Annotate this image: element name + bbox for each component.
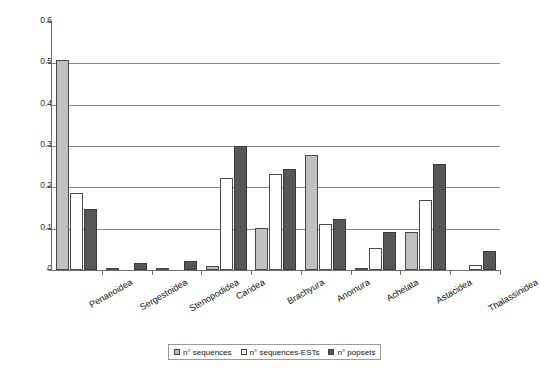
bar — [433, 164, 446, 270]
x-axis-label: Caridea — [234, 277, 266, 301]
bar — [283, 169, 296, 270]
x-tick-mark — [500, 271, 501, 275]
x-tick-mark — [201, 271, 202, 275]
bar — [106, 268, 119, 270]
bar-group — [201, 22, 251, 270]
y-axis-ticks: 00.10.20.30.40.50.6 — [0, 0, 52, 250]
y-tick-label: 0.2 — [18, 181, 52, 190]
x-axis-label: Sergestoidea — [138, 277, 189, 312]
legend-item: n° popsets — [328, 348, 375, 357]
y-tick-label: 0.4 — [18, 99, 52, 108]
bar-group — [450, 22, 500, 270]
bar — [56, 60, 69, 270]
x-axis-label: Thalassinidea — [487, 277, 540, 313]
x-axis-line — [51, 270, 501, 271]
x-tick-mark — [152, 271, 153, 275]
x-tick-mark — [301, 271, 302, 275]
legend-swatch-icon — [241, 349, 247, 355]
y-tick-label: 0.5 — [18, 57, 52, 66]
bar-group — [152, 22, 202, 270]
legend-item: n° sequences — [174, 348, 232, 357]
x-axis-label: Astacidea — [435, 277, 474, 305]
legend-label: n° sequences — [183, 348, 232, 357]
x-tick-mark — [450, 271, 451, 275]
x-tick-mark — [351, 271, 352, 275]
bar — [70, 193, 83, 270]
bar — [319, 224, 332, 270]
bar — [305, 155, 318, 270]
bar — [483, 251, 496, 270]
bar — [234, 146, 247, 270]
bar — [333, 219, 346, 270]
bar — [419, 200, 432, 270]
plot-area — [52, 22, 500, 270]
legend-swatch-icon — [174, 349, 180, 355]
y-tick-label: 0.3 — [18, 140, 52, 149]
bar — [134, 263, 147, 270]
x-tick-mark — [102, 271, 103, 275]
bar — [156, 268, 169, 270]
bar-group — [301, 22, 351, 270]
x-axis-label: Penaeoidea — [87, 277, 134, 310]
x-axis-label: Anomura — [335, 277, 372, 304]
bar-group — [400, 22, 450, 270]
x-axis-label: Achelata — [384, 277, 419, 303]
legend-item: n° sequences-ESTs — [241, 348, 320, 357]
bar — [405, 232, 418, 270]
y-tick-label: 0 — [18, 264, 52, 273]
legend-label: n° popsets — [337, 348, 375, 357]
legend-label: n° sequences-ESTs — [250, 348, 320, 357]
bar — [369, 248, 382, 270]
x-tick-mark — [400, 271, 401, 275]
x-axis-label: Brachyura — [285, 277, 326, 306]
bar — [383, 232, 396, 270]
bar-group — [52, 22, 102, 270]
x-tick-mark — [251, 271, 252, 275]
bar — [269, 174, 282, 270]
y-tick-label: 0.1 — [18, 223, 52, 232]
bar — [84, 209, 97, 270]
bar — [220, 178, 233, 270]
bar-group — [351, 22, 401, 270]
bar — [206, 266, 219, 270]
bar — [184, 261, 197, 271]
y-tick-label: 0.6 — [18, 16, 52, 25]
bar-group — [251, 22, 301, 270]
bar — [255, 228, 268, 270]
chart-legend: n° sequencesn° sequences-ESTsn° popsets — [168, 344, 381, 360]
bar — [355, 268, 368, 270]
x-axis-label: Stenopodidea — [188, 277, 241, 313]
bar-group — [102, 22, 152, 270]
bar — [469, 265, 482, 270]
legend-swatch-icon — [328, 349, 334, 355]
